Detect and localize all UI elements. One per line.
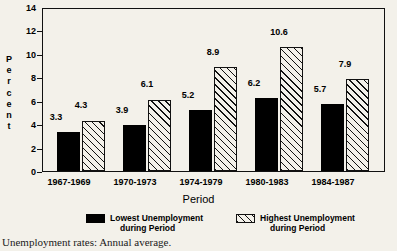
- bar-highest-1974-1979: [214, 67, 237, 171]
- bar-highest-1984-1987: [346, 79, 369, 171]
- legend-item-lowest: Lowest Unemployment during Period: [86, 213, 203, 233]
- value-label-lowest-1984-1987: 5.7: [305, 85, 335, 94]
- bar-highest-1980-1983: [280, 47, 303, 171]
- y-tick-label-12: 12: [14, 27, 36, 36]
- chart-legend: Lowest Unemployment during Period Highes…: [0, 212, 397, 234]
- value-label-lowest-1970-1973: 3.9: [107, 106, 137, 115]
- legend-label-highest-line1: Highest Unemployment: [260, 213, 355, 223]
- value-label-highest-1967-1969: 4.3: [66, 101, 96, 110]
- legend-label-lowest-line1: Lowest Unemployment: [110, 213, 203, 223]
- value-label-lowest-1974-1979: 5.2: [173, 91, 203, 100]
- x-axis-title: Period: [0, 193, 397, 205]
- x-tick-label-1967-1969: 1967-1969: [34, 177, 104, 187]
- legend-swatch-highest-icon: [236, 214, 255, 223]
- y-axis-title-letter: n: [2, 110, 16, 121]
- bar-chart-figure: P e r c e n t 14 12 10 8 6 4 2 0: [0, 0, 397, 251]
- bar-highest-1967-1969: [82, 121, 105, 171]
- x-tick-label-1984-1987: 1984-1987: [298, 177, 368, 187]
- legend-label-highest-line2: during Period: [260, 223, 355, 233]
- legend-label-highest: Highest Unemployment during Period: [260, 213, 355, 233]
- value-label-highest-1974-1979: 8.9: [198, 48, 228, 57]
- legend-label-lowest-line2: during Period: [110, 223, 203, 233]
- bar-lowest-1967-1969: [57, 132, 80, 171]
- chart-footnote: Unemployment rates: Annual average.: [2, 236, 171, 249]
- y-tick-label-0: 0: [14, 168, 36, 177]
- y-tick-mark-0: [37, 172, 42, 173]
- value-label-highest-1980-1983: 10.6: [264, 28, 294, 37]
- value-label-highest-1984-1987: 7.9: [330, 60, 360, 69]
- legend-swatch-lowest-icon: [86, 214, 105, 223]
- bar-lowest-1970-1973: [123, 125, 146, 171]
- legend-item-highest: Highest Unemployment during Period: [236, 213, 355, 233]
- y-tick-label-8: 8: [14, 74, 36, 83]
- value-label-lowest-1980-1983: 6.2: [239, 79, 269, 88]
- bar-lowest-1980-1983: [255, 98, 278, 171]
- legend-label-lowest: Lowest Unemployment during Period: [110, 213, 203, 233]
- x-tick-label-1974-1979: 1974-1979: [166, 177, 236, 187]
- x-tick-label-1980-1983: 1980-1983: [232, 177, 302, 187]
- bar-highest-1970-1973: [148, 100, 171, 171]
- y-tick-label-10: 10: [14, 51, 36, 60]
- bar-lowest-1984-1987: [321, 104, 344, 171]
- value-label-lowest-1967-1969: 3.3: [41, 113, 71, 122]
- y-tick-label-6: 6: [14, 98, 36, 107]
- y-tick-label-14: 14: [14, 4, 36, 13]
- value-label-highest-1970-1973: 6.1: [132, 80, 162, 89]
- y-tick-label-4: 4: [14, 121, 36, 130]
- y-tick-label-2: 2: [14, 145, 36, 154]
- x-tick-label-1970-1973: 1970-1973: [100, 177, 170, 187]
- bar-lowest-1974-1979: [189, 110, 212, 171]
